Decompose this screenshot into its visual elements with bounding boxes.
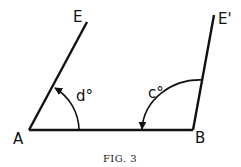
- figure-caption: FIG. 3: [103, 153, 137, 164]
- segment-be-prime: [193, 15, 214, 130]
- label-angle-d: d°: [76, 87, 93, 105]
- geometry-figure: E E' A B d° c° FIG. 3: [0, 0, 241, 167]
- label-point-a: A: [13, 130, 24, 148]
- segment-ae: [29, 22, 87, 130]
- label-point-e-prime: E': [218, 10, 232, 28]
- label-point-e: E: [73, 8, 82, 26]
- label-angle-c: c°: [148, 84, 164, 102]
- label-point-b: B: [195, 129, 205, 147]
